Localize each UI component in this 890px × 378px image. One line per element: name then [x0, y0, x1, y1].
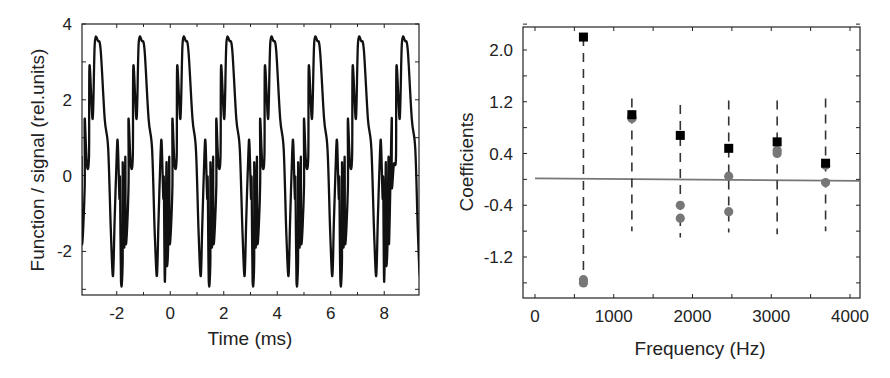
circle-marker: [724, 172, 733, 181]
x-tick-label: 3000: [752, 307, 790, 326]
x-tick-label: 0: [530, 307, 539, 326]
square-marker: [773, 137, 782, 146]
left-y-tick-labels: -2024: [57, 15, 72, 261]
circle-marker: [579, 278, 588, 287]
x-tick-label: 4000: [831, 307, 869, 326]
right-x-axis-label: Frequency (Hz): [635, 338, 766, 359]
y-tick-label: 2.0: [489, 41, 513, 60]
zero-reference-line: [535, 178, 860, 181]
circle-marker: [821, 178, 830, 187]
left-y-axis-label: Function / signal (rel.units): [27, 49, 48, 272]
circle-marker: [773, 146, 782, 155]
right-x-tick-labels: 01000200030004000: [530, 307, 869, 326]
square-marker: [627, 110, 636, 119]
x-tick-label: 2000: [674, 307, 712, 326]
frequency-coefficients-chart: 01000200030004000 -1.2-0.40.41.22.0 Freq…: [456, 24, 869, 359]
y-tick-label: -2: [57, 242, 72, 261]
y-tick-label: -0.4: [484, 196, 513, 215]
y-tick-label: -1.2: [484, 248, 513, 267]
x-tick-label: 2: [219, 304, 228, 323]
data-markers: [579, 33, 830, 288]
circle-marker: [676, 201, 685, 210]
square-marker: [676, 131, 685, 140]
square-marker: [821, 159, 830, 168]
square-marker: [579, 33, 588, 42]
time-signal-chart: -202468 -2024 Time (ms) Function / signa…: [27, 15, 432, 349]
y-tick-label: 2: [63, 91, 72, 110]
y-tick-label: 0: [63, 167, 72, 186]
x-tick-label: 0: [166, 304, 175, 323]
left-x-axis-label: Time (ms): [208, 328, 293, 349]
left-x-tick-labels: -202468: [109, 304, 389, 323]
circle-marker: [724, 207, 733, 216]
square-marker: [724, 144, 733, 153]
right-y-tick-labels: -1.2-0.40.41.22.0: [484, 41, 513, 267]
x-tick-label: 8: [379, 304, 388, 323]
right-plot-frame: [523, 27, 860, 298]
circle-marker: [676, 214, 685, 223]
y-tick-label: 0.4: [489, 145, 513, 164]
y-tick-label: 1.2: [489, 93, 513, 112]
figure: -202468 -2024 Time (ms) Function / signa…: [0, 0, 890, 378]
x-tick-label: 4: [273, 304, 282, 323]
x-tick-label: -2: [109, 304, 124, 323]
x-tick-label: 1000: [595, 307, 633, 326]
y-tick-label: 4: [63, 15, 72, 34]
x-tick-label: 6: [326, 304, 335, 323]
right-axis-ticks: [523, 24, 860, 298]
dashed-error-bars: [583, 37, 825, 280]
signal-line: [69, 36, 432, 286]
right-y-axis-label: Coefficients: [456, 113, 477, 212]
